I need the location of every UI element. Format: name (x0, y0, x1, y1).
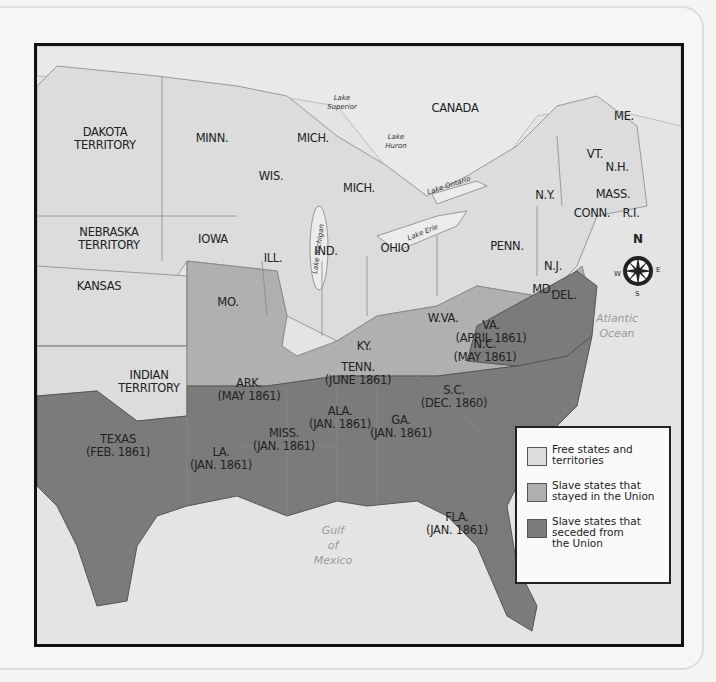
compass-e: E (656, 266, 660, 274)
label-vt: VT. (587, 148, 603, 161)
label-mich-upper: MICH. (297, 132, 329, 145)
compass-n: N (633, 232, 643, 246)
label-gulf-of-mexico: Gulf of Mexico (314, 523, 353, 568)
label-nh: N.H. (605, 161, 628, 174)
label-wis: WIS. (259, 170, 284, 183)
map-legend: Free states and territories Slave states… (515, 426, 671, 584)
label-ala: ALA. (JAN. 1861) (309, 405, 371, 431)
label-nc: N.C. (MAY 1861) (454, 338, 517, 364)
label-ri: R.I. (622, 207, 639, 220)
compass-s: S (635, 290, 639, 298)
label-iowa: IOWA (198, 233, 228, 246)
label-kansas: KANSAS (77, 280, 122, 293)
label-lake-superior: Lake Superior (327, 94, 357, 112)
legend-label-slave-seceded: Slave states that seceded from the Union (552, 516, 641, 549)
label-ky: KY. (357, 340, 372, 353)
legend-label-free: Free states and territories (552, 444, 633, 466)
label-ohio: OHIO (381, 242, 410, 255)
label-indian-territory: INDIAN TERRITORY (118, 369, 179, 395)
label-nj: N.J. (544, 260, 562, 273)
label-fla: FLA. (JAN. 1861) (426, 511, 488, 537)
label-del: DEL. (552, 289, 577, 302)
label-ga: GA. (JAN. 1861) (370, 414, 432, 440)
label-nebraska-territory: NEBRASKA TERRITORY (78, 226, 139, 252)
label-me: ME. (614, 110, 634, 123)
label-minn: MINN. (196, 132, 229, 145)
label-la: LA. (JAN. 1861) (190, 446, 252, 472)
label-penn: PENN. (490, 240, 524, 253)
legend-item-free: Free states and territories (527, 444, 633, 466)
label-conn: CONN. (574, 207, 610, 220)
label-atlantic-ocean: Atlantic Ocean (585, 311, 649, 341)
label-ill: ILL. (264, 252, 283, 265)
label-ark: ARK. (MAY 1861) (218, 377, 281, 403)
label-dakota-territory: DAKOTA TERRITORY (74, 126, 135, 152)
label-sc: S.C. (DEC. 1860) (421, 384, 487, 410)
label-canada: CANADA (431, 102, 478, 115)
compass-rose: N E W S (614, 234, 662, 304)
compass-w: W (614, 270, 621, 278)
label-lake-huron: Lake Huron (385, 133, 406, 151)
legend-swatch-free (527, 447, 547, 466)
label-wva: W.VA. (428, 312, 459, 325)
civil-war-map: CANADA DAKOTA TERRITORY MINN. MICH. WIS.… (34, 43, 684, 647)
legend-label-slave-union: Slave states that stayed in the Union (552, 480, 655, 502)
label-mich-lower: MICH. (343, 182, 375, 195)
legend-swatch-slave-seceded (527, 519, 547, 538)
label-texas: TEXAS (FEB. 1861) (86, 433, 150, 459)
label-mo: MO. (217, 296, 238, 309)
legend-item-slave-union: Slave states that stayed in the Union (527, 480, 655, 502)
label-tenn: TENN. (JUNE 1861) (325, 361, 391, 387)
label-mass: MASS. (596, 188, 631, 201)
legend-item-slave-seceded: Slave states that seceded from the Union (527, 516, 641, 549)
label-miss: MISS. (JAN. 1861) (253, 427, 315, 453)
label-ny: N.Y. (535, 189, 554, 202)
legend-swatch-slave-union (527, 483, 547, 502)
